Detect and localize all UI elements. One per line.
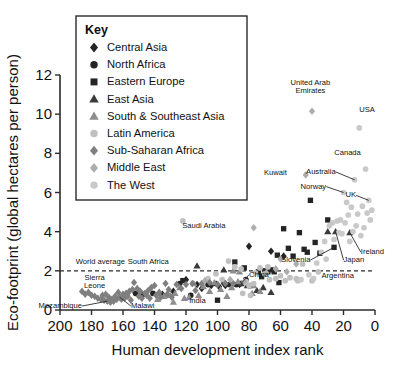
x-tick-label: 200 bbox=[47, 317, 72, 334]
y-tick-label: 6 bbox=[44, 184, 52, 201]
annotation-label: India bbox=[189, 296, 206, 305]
annotation-label: World average bbox=[76, 257, 125, 266]
annotation-leader-line bbox=[356, 195, 369, 200]
annotation-label: Slovenia bbox=[281, 255, 311, 264]
data-point bbox=[287, 275, 293, 281]
data-point bbox=[360, 203, 366, 209]
data-point bbox=[286, 246, 291, 251]
chart-canvas: 024681012200180160140120100806040200Eco-… bbox=[0, 0, 394, 366]
x-tick-label: 160 bbox=[110, 317, 135, 334]
data-point bbox=[324, 228, 331, 234]
data-point bbox=[331, 237, 337, 243]
data-point bbox=[281, 226, 286, 231]
legend-item-label: Central Asia bbox=[107, 41, 168, 53]
data-point bbox=[344, 199, 350, 205]
data-point bbox=[356, 125, 362, 131]
data-point bbox=[363, 166, 369, 172]
legend-item-label: Latin America bbox=[107, 127, 176, 139]
annotation-label: USA bbox=[359, 105, 376, 114]
data-point bbox=[352, 177, 358, 183]
annotation-label: Saudi Arabia bbox=[182, 221, 226, 230]
legend-item-label: The West bbox=[107, 179, 156, 191]
x-tick-label: 120 bbox=[173, 317, 198, 334]
data-point bbox=[193, 262, 200, 268]
y-tick-label: 2 bbox=[44, 262, 52, 279]
data-point bbox=[238, 266, 244, 272]
legend-marker bbox=[90, 61, 97, 68]
x-tick-label: 80 bbox=[241, 317, 258, 334]
data-point bbox=[206, 288, 213, 294]
legend-marker bbox=[91, 78, 98, 85]
data-point bbox=[297, 230, 302, 235]
data-point bbox=[361, 225, 367, 231]
legend-item-label: Eastern Europe bbox=[107, 75, 185, 87]
annotation-label: Ireland bbox=[361, 247, 384, 256]
y-tick-label: 12 bbox=[35, 66, 52, 83]
data-point bbox=[267, 289, 274, 295]
legend-item-label: South & Southeast Asia bbox=[107, 110, 225, 122]
annotation-label: Norway bbox=[300, 182, 326, 191]
y-axis-title: Eco-footprint (global hectares per perso… bbox=[4, 54, 21, 331]
y-tick-label: 10 bbox=[35, 105, 52, 122]
x-tick-label: 140 bbox=[142, 317, 167, 334]
data-point bbox=[306, 272, 312, 278]
annotation-label: Argentina bbox=[321, 271, 354, 280]
annotation-leader-line bbox=[82, 301, 107, 306]
x-tick-label: 40 bbox=[304, 317, 321, 334]
data-point bbox=[312, 240, 317, 245]
data-point bbox=[323, 256, 329, 262]
legend-item-label: North Africa bbox=[107, 58, 166, 70]
annotation-label: Australia bbox=[306, 167, 336, 176]
annotation-label: Leone bbox=[84, 281, 105, 290]
data-point bbox=[350, 229, 356, 235]
data-point bbox=[325, 217, 330, 222]
legend-item-label: Middle East bbox=[107, 161, 166, 173]
x-axis-ticks: 200180160140120100806040200 bbox=[47, 310, 379, 334]
annotation-label: UK bbox=[346, 190, 357, 199]
x-axis-title: Human development index rank bbox=[112, 341, 324, 358]
data-point bbox=[282, 278, 288, 284]
x-tick-label: 100 bbox=[205, 317, 230, 334]
legend-item-south-southeast-asia[interactable]: South & Southeast Asia bbox=[89, 110, 225, 122]
data-point bbox=[314, 260, 320, 266]
data-point bbox=[315, 269, 321, 275]
data-point bbox=[342, 220, 348, 226]
annotation-leader-line bbox=[310, 247, 334, 260]
data-point bbox=[246, 243, 252, 251]
data-point bbox=[215, 298, 220, 303]
data-point bbox=[213, 271, 219, 277]
data-point bbox=[345, 212, 351, 218]
data-point bbox=[347, 239, 353, 245]
data-point bbox=[364, 210, 370, 216]
legend-item-label: Sub-Saharan Africa bbox=[107, 144, 205, 156]
data-point bbox=[131, 279, 137, 287]
annotation-leader-line bbox=[326, 187, 343, 193]
data-point bbox=[309, 107, 315, 115]
data-point bbox=[268, 247, 274, 255]
y-tick-label: 4 bbox=[44, 223, 52, 240]
data-point bbox=[308, 198, 313, 203]
annotation-label: Canada bbox=[334, 148, 361, 157]
data-point bbox=[192, 287, 198, 295]
annotation-label: China bbox=[249, 270, 270, 279]
annotation-label: South Africa bbox=[128, 257, 170, 266]
data-point bbox=[251, 224, 257, 232]
eco-footprint-scatter-chart: 024681012200180160140120100806040200Eco-… bbox=[0, 0, 394, 366]
x-tick-label: 180 bbox=[79, 317, 104, 334]
legend-item-sub-saharan-africa[interactable]: Sub-Saharan Africa bbox=[90, 144, 205, 156]
legend-title: Key bbox=[85, 23, 108, 37]
annotation-label: Japan bbox=[344, 255, 365, 264]
data-point bbox=[226, 258, 232, 264]
data-point bbox=[369, 207, 375, 213]
y-axis-ticks: 024681012 bbox=[35, 66, 60, 318]
data-point bbox=[232, 264, 238, 270]
annotation-label: Malawi bbox=[131, 301, 155, 310]
data-point bbox=[353, 223, 359, 229]
annotation-label: Kuwait bbox=[264, 168, 288, 177]
data-point bbox=[248, 292, 254, 298]
data-point bbox=[278, 273, 284, 279]
x-tick-label: 60 bbox=[272, 317, 289, 334]
legend: KeyCentral AsiaNorth AfricaEastern Europ… bbox=[76, 16, 247, 200]
data-point bbox=[220, 266, 227, 272]
data-point bbox=[358, 233, 364, 239]
